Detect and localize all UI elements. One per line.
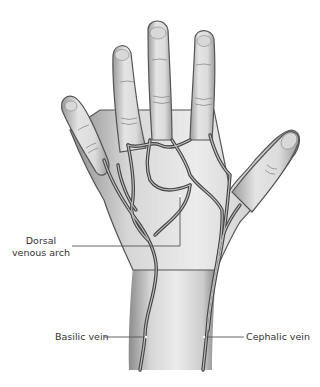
cephalic-vein-label: Cephalic vein xyxy=(246,331,310,343)
dorsal-venous-arch-label: Dorsal venous arch xyxy=(10,235,72,259)
index-finger xyxy=(190,31,215,140)
ring-finger xyxy=(113,46,146,152)
basilic-pointer xyxy=(145,336,148,339)
middle-finger xyxy=(148,21,172,140)
dorsal-label-line2: venous arch xyxy=(10,247,72,259)
basilic-vein-label: Basilic vein xyxy=(55,331,109,343)
hand-vein-illustration xyxy=(0,0,320,387)
cephalic-pointer xyxy=(203,336,206,339)
dorsal-label-line1: Dorsal xyxy=(10,235,72,247)
dorsal-arch-pointer xyxy=(179,195,182,198)
